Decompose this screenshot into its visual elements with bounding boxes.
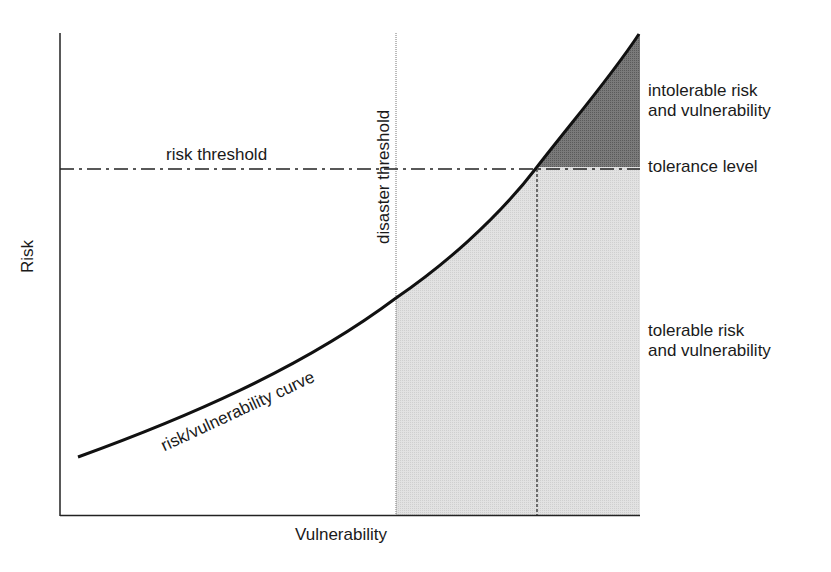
tolerable-label-line2: and vulnerability <box>648 341 771 361</box>
y-axis-label: Risk <box>18 240 38 273</box>
intolerable-label-line2: and vulnerability <box>648 101 771 121</box>
tolerable-region <box>396 167 640 515</box>
disaster-threshold-label: disaster threshold <box>374 110 394 244</box>
tolerable-label-line1: tolerable risk <box>648 321 744 341</box>
x-axis-label: Vulnerability <box>295 525 387 545</box>
intolerable-label-line1: intolerable risk <box>648 81 758 101</box>
tolerance-level-label: tolerance level <box>648 157 758 177</box>
risk-threshold-label: risk threshold <box>166 145 267 165</box>
